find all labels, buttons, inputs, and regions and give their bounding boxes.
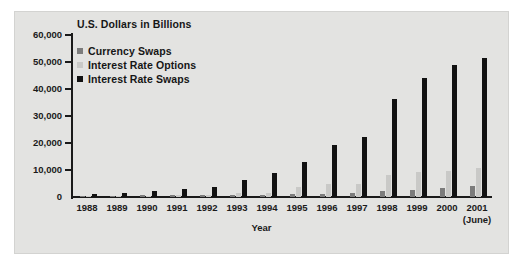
- bar: [452, 65, 457, 197]
- bar-group: [470, 35, 487, 197]
- bar: [392, 99, 397, 197]
- bar: [476, 168, 481, 197]
- plot-area: [72, 35, 492, 197]
- x-axis-tick-label: 2001: [452, 202, 502, 213]
- bar-group: [230, 35, 247, 197]
- bar: [260, 195, 265, 197]
- bar: [326, 184, 331, 197]
- bar: [482, 58, 487, 197]
- bar: [272, 173, 277, 197]
- chart-figure: U.S. Dollars in Billions 010,00020,00030…: [0, 0, 523, 265]
- bar: [236, 193, 241, 197]
- bar: [86, 196, 91, 197]
- bar: [446, 171, 451, 197]
- bar: [92, 194, 97, 197]
- bar: [110, 196, 115, 197]
- bar-group: [410, 35, 427, 197]
- bar: [122, 193, 127, 197]
- y-axis-tick-label: 10,000: [16, 164, 62, 175]
- bar-group: [110, 35, 127, 197]
- bar: [302, 162, 307, 197]
- bar: [386, 175, 391, 197]
- bar: [422, 78, 427, 197]
- bar: [356, 184, 361, 197]
- bar: [362, 137, 367, 197]
- bar: [200, 195, 205, 197]
- bar: [140, 195, 145, 197]
- bar: [416, 172, 421, 197]
- bar: [182, 189, 187, 197]
- bar: [290, 194, 295, 197]
- bar: [116, 196, 121, 197]
- bar: [470, 186, 475, 197]
- bar: [152, 191, 157, 197]
- y-axis-tick-label: 40,000: [16, 83, 62, 94]
- bar-group: [200, 35, 217, 197]
- y-axis-tick-label: 20,000: [16, 137, 62, 148]
- bar-group: [290, 35, 307, 197]
- x-axis-title: Year: [0, 222, 523, 233]
- bar: [332, 145, 337, 197]
- bar: [80, 196, 85, 197]
- bar: [410, 190, 415, 197]
- bar: [296, 187, 301, 197]
- bar: [206, 195, 211, 197]
- y-axis-tick-label: 50,000: [16, 56, 62, 67]
- bar: [212, 187, 217, 197]
- bar-group: [140, 35, 157, 197]
- bar-group: [80, 35, 97, 197]
- bar: [380, 191, 385, 197]
- bar-group: [350, 35, 367, 197]
- bar-group: [380, 35, 397, 197]
- bar-group: [260, 35, 277, 197]
- y-axis-tick-label: 0: [16, 191, 62, 202]
- chart-title: U.S. Dollars in Billions: [77, 18, 191, 30]
- bar: [176, 195, 181, 197]
- y-axis-tick-label: 60,000: [16, 29, 62, 40]
- bar: [266, 193, 271, 197]
- y-axis-tick-label: 30,000: [16, 110, 62, 121]
- bar: [350, 193, 355, 197]
- bar: [230, 195, 235, 197]
- bar-group: [440, 35, 457, 197]
- bar-group: [170, 35, 187, 197]
- bar: [170, 195, 175, 197]
- bar-group: [320, 35, 337, 197]
- bar: [440, 188, 445, 197]
- bar: [146, 196, 151, 198]
- bar: [320, 194, 325, 197]
- bar: [242, 180, 247, 197]
